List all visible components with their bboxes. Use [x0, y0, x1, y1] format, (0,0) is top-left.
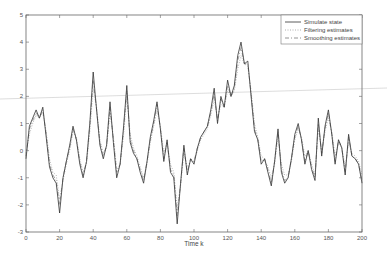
x-tick-label: 60 [123, 235, 130, 241]
series-smoothing-estimates [26, 48, 362, 216]
y-tick-label: -2 [18, 202, 24, 208]
series-simulate-state [26, 42, 362, 224]
x-tick-label: 160 [290, 235, 301, 241]
series-filtering-estimates [26, 56, 362, 208]
y-tick-label: 0 [20, 148, 24, 154]
x-tick-label: 40 [90, 235, 97, 241]
y-tick-label: -1 [18, 175, 24, 181]
x-tick-label: 80 [157, 235, 164, 241]
legend-label-filtering: Filtering estimates [304, 27, 353, 33]
x-tick-label: 200 [357, 235, 368, 241]
x-tick-label: 120 [223, 235, 234, 241]
y-tick-label: 4 [20, 39, 24, 45]
line-chart: 020406080100120140160180200 -3-2-1012345… [0, 0, 387, 258]
x-tick-label: 20 [56, 235, 63, 241]
scan-artifact-line [0, 88, 387, 99]
x-tick-label: 180 [323, 235, 334, 241]
x-tick-label: 0 [24, 235, 28, 241]
x-tick-label: 140 [256, 235, 267, 241]
y-tick-label: 5 [20, 12, 24, 18]
x-axis: 020406080100120140160180200 [24, 15, 367, 241]
y-tick-label: -3 [18, 229, 24, 235]
y-tick-label: 1 [20, 121, 24, 127]
plot-frame [26, 15, 362, 232]
legend-label-smoothing: Smoothing estimates [304, 35, 360, 41]
x-axis-label: Time k [184, 240, 204, 247]
legend-label-simulate: Simulate state [304, 19, 343, 25]
series-layer [26, 42, 362, 224]
legend: Simulate state Filtering estimates Smoot… [281, 15, 362, 44]
y-axis: -3-2-1012345 [18, 12, 362, 235]
y-tick-label: 3 [20, 66, 24, 72]
